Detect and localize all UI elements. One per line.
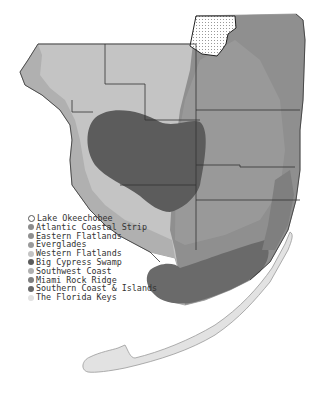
- dot-icon: [28, 268, 34, 274]
- legend-item-florida-keys: The Florida Keys: [28, 293, 157, 302]
- map-legend: Lake Okeechobee Atlantic Coastal Strip E…: [28, 214, 157, 302]
- dot-icon: [28, 259, 34, 265]
- legend-label: The Florida Keys: [36, 293, 117, 302]
- dot-icon: [28, 224, 34, 230]
- dot-icon: [28, 242, 34, 248]
- south-florida-map: [0, 0, 325, 394]
- dot-icon: [28, 277, 34, 283]
- dot-icon: [28, 233, 34, 239]
- dot-icon: [28, 251, 34, 257]
- lake-icon: [28, 215, 35, 222]
- dot-icon: [28, 286, 34, 292]
- dot-icon: [28, 295, 34, 301]
